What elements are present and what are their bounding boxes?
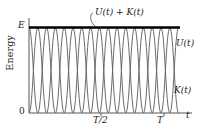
energy-vs-time-chart: Energy E 0 T/2 T t U(t) + K(t) U(t) K(t) xyxy=(0,0,203,136)
y-axis-tick-label-E: E xyxy=(18,21,25,30)
x-axis-label: t xyxy=(186,111,190,120)
kinetic-energy-curve xyxy=(29,28,179,113)
potential-energy-annotation-label: U(t) xyxy=(176,39,194,48)
x-axis-tick-label-T: T xyxy=(157,116,163,125)
total-energy-annotation-label: U(t) + K(t) xyxy=(95,8,144,17)
x-axis-tick-label-t-half: T/2 xyxy=(93,116,108,125)
kinetic-energy-annotation-label: K(t) xyxy=(174,86,191,95)
y-axis-tick-label-zero: 0 xyxy=(19,107,25,116)
y-axis-label: Energy xyxy=(5,30,15,76)
